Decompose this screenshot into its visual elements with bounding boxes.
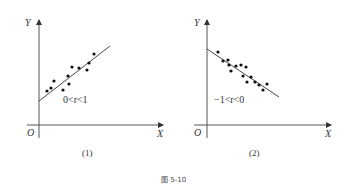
data-point	[66, 74, 69, 77]
data-point	[227, 63, 230, 66]
data-point	[77, 66, 80, 69]
data-point	[265, 82, 268, 85]
data-point	[241, 74, 244, 77]
data-point	[257, 83, 260, 86]
y-axis-label: Y	[194, 17, 201, 28]
data-point	[92, 52, 95, 55]
data-point	[226, 58, 229, 61]
data-point	[249, 75, 252, 78]
data-point	[52, 79, 55, 82]
data-point	[216, 50, 219, 53]
data-point	[67, 82, 70, 85]
correlation-annotation: 0<r<1	[63, 94, 88, 105]
data-points	[45, 52, 95, 92]
x-axis-label: X	[156, 128, 164, 139]
data-point	[49, 86, 52, 89]
fit-line	[39, 46, 110, 101]
y-axis-label: Y	[25, 17, 32, 28]
data-point	[261, 88, 264, 91]
figure-canvas: Y O X 0<r<1 (1) Y O X −1<r<0 (2) 图 5-10	[0, 0, 348, 193]
data-point	[244, 65, 247, 68]
data-point	[85, 68, 88, 71]
data-point	[245, 80, 248, 83]
chart-subtitle: (1)	[82, 148, 93, 158]
chart-subtitle: (2)	[249, 148, 260, 158]
figure-caption: 图 5-10	[161, 176, 186, 184]
origin-label: O	[27, 127, 34, 138]
correlation-annotation: −1<r<0	[214, 94, 244, 105]
data-points	[216, 50, 268, 91]
origin-label: O	[194, 127, 201, 138]
data-point	[87, 61, 90, 64]
data-point	[234, 64, 237, 67]
data-point	[70, 65, 73, 68]
data-point	[239, 63, 242, 66]
x-axis-label: X	[324, 128, 332, 139]
data-point	[61, 88, 64, 91]
data-point	[229, 69, 232, 72]
scatter-chart-2: Y O X −1<r<0 (2)	[194, 17, 332, 158]
scatter-chart-1: Y O X 0<r<1 (1)	[25, 17, 164, 158]
data-point	[221, 59, 224, 62]
data-point	[253, 80, 256, 83]
fit-line	[207, 49, 279, 97]
data-point	[45, 89, 48, 92]
